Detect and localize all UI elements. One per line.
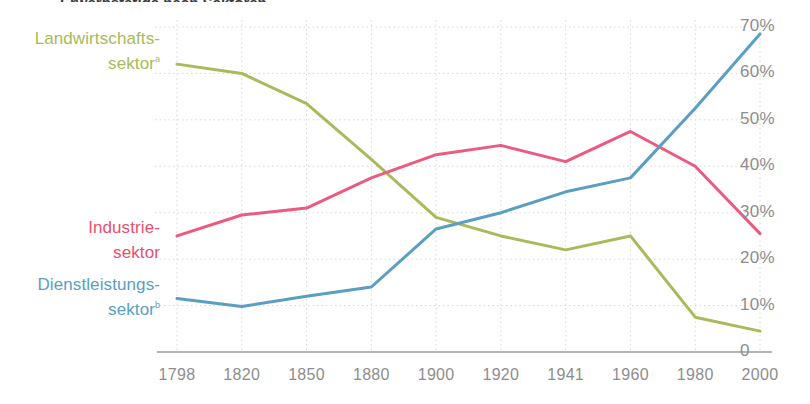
legend-services: Dienstleistungs- sektorb: [0, 274, 160, 320]
y-axis-tick-70pct: 70%: [740, 16, 775, 36]
y-axis-tick-20pct: 20%: [740, 248, 775, 268]
x-axis-tick-1850: 1850: [288, 366, 325, 384]
legend-agriculture-line2: sektor: [108, 54, 155, 73]
x-axis-tick-1980: 1980: [677, 366, 714, 384]
sector-employment-line-chart: Erwerbstätige nach Sektoren Landwirtscha…: [0, 0, 810, 404]
legend-services-footnote: b: [155, 300, 160, 310]
legend-services-line1: Dienstleistungs-: [37, 275, 160, 294]
y-axis-tick-50pct: 50%: [740, 109, 775, 129]
legend-industry-line1: Industrie-: [88, 218, 160, 237]
y-axis-tick-40pct: 40%: [740, 155, 775, 175]
x-axis-tick-1798: 1798: [159, 366, 196, 384]
y-axis-tick-60pct: 60%: [740, 62, 775, 82]
series-line-landwirtschaftssektor: [177, 64, 760, 331]
legend-agriculture: Landwirtschafts- sektora: [0, 28, 160, 74]
x-axis-tick-1941: 1941: [547, 366, 584, 384]
y-axis-tick-10pct: 10%: [740, 295, 775, 315]
x-axis-tick-1900: 1900: [418, 366, 455, 384]
legend-agriculture-line1: Landwirtschafts-: [35, 29, 160, 48]
x-axis-tick-1960: 1960: [612, 366, 649, 384]
x-axis-tick-1820: 1820: [223, 366, 260, 384]
series-line-dienstleistungssektor: [177, 34, 760, 307]
x-axis-tick-1880: 1880: [353, 366, 390, 384]
legend-industry: Industrie- sektor: [0, 217, 160, 263]
legend-services-line2: sektor: [108, 300, 155, 319]
legend-agriculture-footnote: a: [155, 54, 160, 64]
x-axis-tick-1920: 1920: [482, 366, 519, 384]
x-axis-tick-2000: 2000: [742, 366, 779, 384]
y-axis-tick-30pct: 30%: [740, 202, 775, 222]
y-axis-tick-0: 0: [740, 341, 750, 361]
legend-industry-line2: sektor: [113, 243, 160, 262]
